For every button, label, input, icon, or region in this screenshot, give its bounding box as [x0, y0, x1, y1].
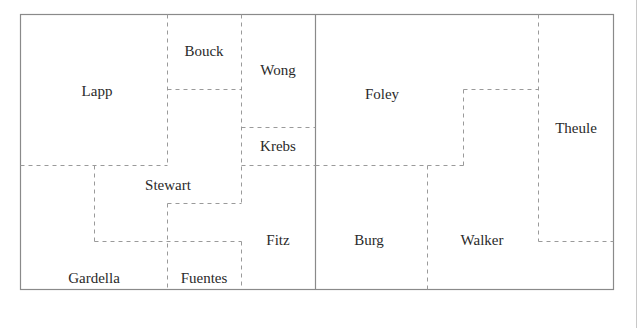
region-label-gardella: Gardella — [68, 270, 120, 287]
page-edge-line — [636, 0, 637, 328]
region-label-fuentes: Fuentes — [181, 270, 228, 287]
region-label-bouck: Bouck — [184, 43, 223, 60]
dashed-partitions — [21, 15, 614, 290]
region-label-burg: Burg — [354, 232, 384, 249]
region-label-fitz: Fitz — [266, 232, 289, 249]
region-label-foley: Foley — [365, 86, 399, 103]
region-label-theule: Theule — [555, 120, 597, 137]
region-label-lapp: Lapp — [82, 83, 113, 100]
region-label-walker: Walker — [461, 232, 504, 249]
region-label-wong: Wong — [260, 62, 295, 79]
region-label-krebs: Krebs — [260, 138, 296, 155]
region-label-stewart: Stewart — [145, 177, 191, 194]
outer-border — [21, 15, 614, 290]
